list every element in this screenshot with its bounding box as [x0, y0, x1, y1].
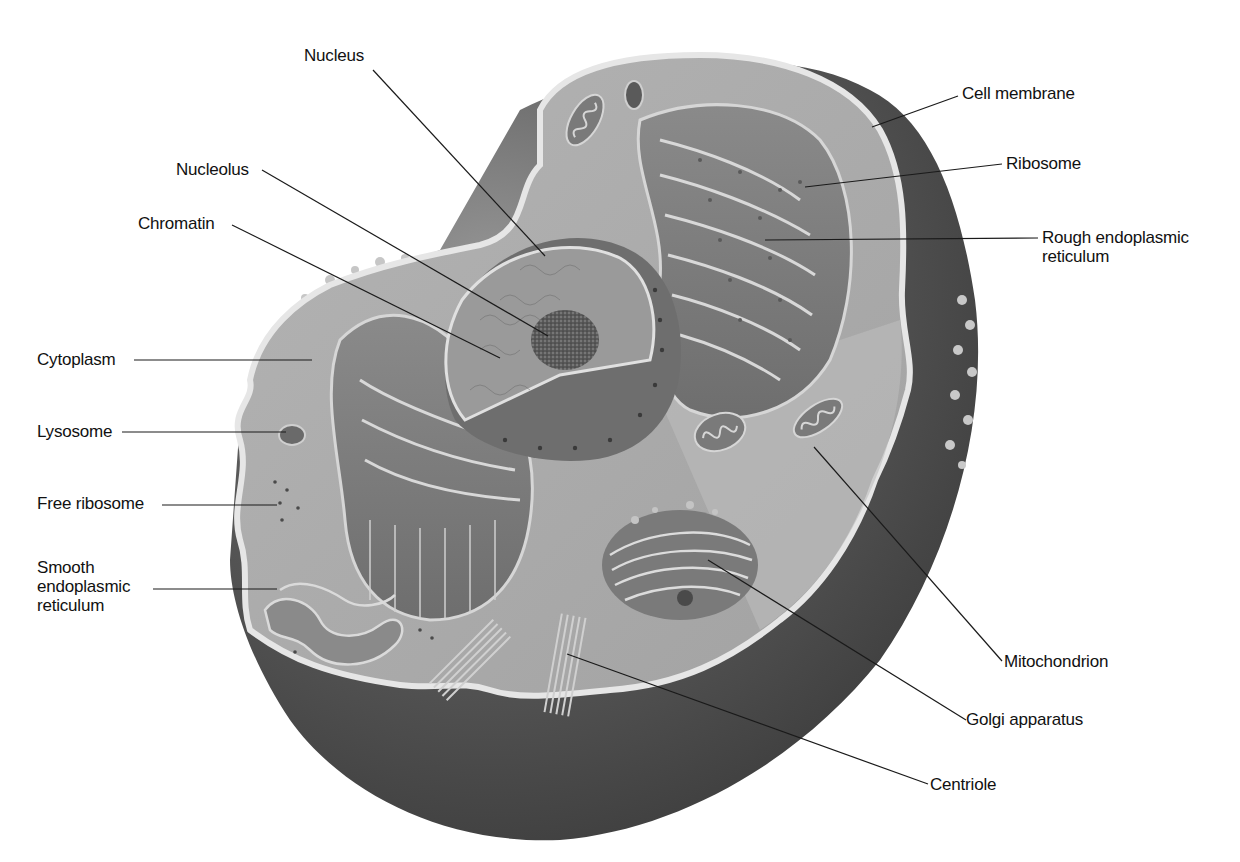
label-cytoplasm: Cytoplasm	[37, 350, 116, 369]
cell-diagram	[0, 0, 1240, 862]
label-lysosome: Lysosome	[37, 422, 112, 441]
label-mitochondrion: Mitochondrion	[1004, 652, 1108, 671]
label-nucleolus: Nucleolus	[176, 160, 249, 179]
label-rough-er: Rough endoplasmic reticulum	[1042, 228, 1189, 266]
nucleolus-illustration	[531, 310, 599, 370]
label-golgi-apparatus: Golgi apparatus	[966, 710, 1083, 729]
label-smooth-er: Smooth endoplasmic reticulum	[37, 558, 130, 615]
label-cell-membrane: Cell membrane	[962, 84, 1075, 103]
label-free-ribosome: Free ribosome	[37, 494, 144, 513]
lysosome-illustration	[279, 425, 305, 445]
label-centriole: Centriole	[930, 775, 996, 794]
label-ribosome: Ribosome	[1006, 154, 1081, 173]
label-chromatin: Chromatin	[138, 214, 215, 233]
label-nucleus: Nucleus	[304, 46, 364, 65]
